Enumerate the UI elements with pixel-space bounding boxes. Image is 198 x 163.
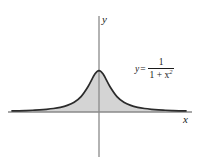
- equation-lhs: y: [135, 65, 139, 75]
- curve-equation-label: y = 1 1 + x2: [135, 58, 174, 81]
- equation-equals-sign: =: [140, 65, 145, 75]
- equation-numerator: 1: [156, 58, 167, 68]
- equation-fraction: 1 1 + x2: [148, 58, 175, 81]
- plot-canvas: [0, 0, 198, 163]
- area-under-curve-figure: y x y = 1 1 + x2: [0, 0, 198, 163]
- denominator-exponent: 2: [169, 68, 172, 75]
- denominator-base: 1 + x: [150, 70, 170, 80]
- x-axis-label: x: [183, 114, 188, 125]
- equation-denominator: 1 + x2: [148, 69, 175, 81]
- y-axis-label: y: [102, 14, 107, 25]
